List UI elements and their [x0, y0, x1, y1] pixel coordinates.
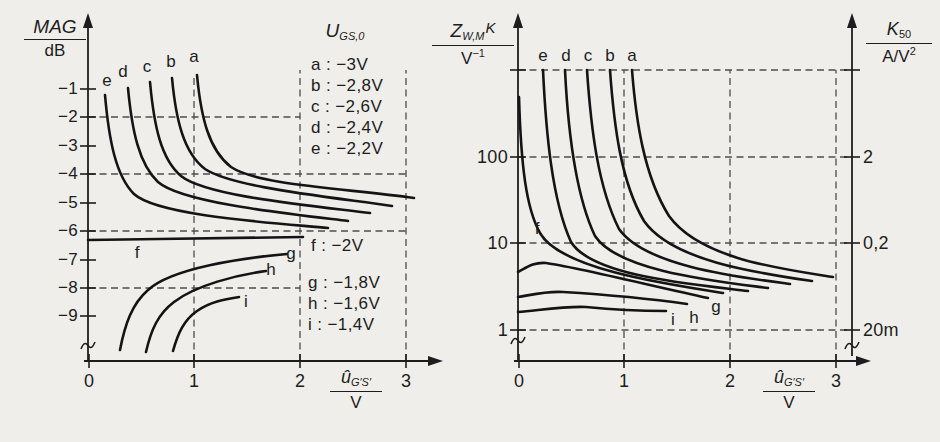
zk-label-numerator: ZW,MK: [432, 20, 514, 46]
left-x-tick-1: 1: [179, 371, 209, 392]
legend-header-subscript: GS,0: [339, 30, 364, 42]
legend-item-e: e : −2,2V: [311, 139, 383, 159]
curve-i-right: [518, 307, 666, 312]
k50-label-numerator: K50: [866, 20, 932, 44]
right-left-y-arrow: [513, 13, 523, 28]
legend-item-g: g : −1,8V: [308, 273, 380, 293]
left-y-tick-5: −5: [28, 193, 78, 213]
right-right-y-axis-label: K50 A/V2: [866, 20, 932, 65]
scanned-figure: MAG dB −1 −2 −3 −4 −5 −6 −7 −8 −9 0 1 2 …: [0, 0, 940, 442]
curve-label-i-left: i: [244, 292, 248, 312]
legend-item-b: b : −2,8V: [311, 76, 383, 96]
left-plot-arrows: [83, 13, 443, 366]
right-x-tick-1: 1: [609, 371, 639, 392]
curve-f-left: [88, 237, 303, 240]
curve-label-b-left: b: [166, 52, 175, 72]
curve-label-h-right: h: [689, 308, 698, 328]
right-y-tick-100: 100: [456, 147, 508, 168]
curve-label-g-left: g: [286, 244, 295, 264]
curve-g-left: [120, 254, 287, 350]
left-y-label-denominator: dB: [24, 40, 86, 60]
right-y2-tick-20m: 20m: [863, 320, 933, 341]
curve-label-c-right: c: [584, 46, 593, 66]
curve-h-left: [146, 271, 266, 352]
right-x-axis-label: ûG′S′ V: [763, 368, 815, 411]
legend-header: UGS,0: [314, 20, 376, 42]
left-y-tick-7: −7: [28, 250, 78, 270]
zk-label-denominator: V−1: [432, 46, 514, 68]
right-x-tick-3: 3: [821, 371, 851, 392]
left-x-arrow: [428, 356, 443, 366]
k50-label-denominator: A/V2: [866, 44, 932, 66]
curve-a-right: [632, 70, 833, 277]
right-plot-axes: [510, 26, 860, 368]
curve-label-e-right: e: [538, 46, 547, 66]
left-y-tick-9: −9: [28, 306, 78, 326]
right-y-tick-10: 10: [456, 233, 508, 254]
curve-label-e-left: e: [102, 71, 111, 91]
left-y-tick-1: −1: [28, 79, 78, 99]
legend-item-h: h : −1,6V: [308, 294, 380, 314]
curve-label-i-right: i: [671, 310, 675, 330]
curve-i-left: [173, 297, 239, 351]
curve-label-a-left: a: [189, 47, 198, 67]
left-y-tick-4: −4: [28, 164, 78, 184]
curve-label-d-right: d: [561, 46, 570, 66]
curve-label-f-left: f: [135, 243, 140, 263]
right-x-label-numerator: ûG′S′: [763, 368, 815, 392]
left-y-tick-2: −2: [28, 107, 78, 127]
curve-label-g-right: g: [711, 297, 720, 317]
left-y-label-numerator: MAG: [24, 17, 86, 40]
right-left-y-axis-label: ZW,MK V−1: [432, 20, 514, 67]
left-x-axis-label: ûG′S′ V: [330, 368, 382, 411]
left-x-tick-2: 2: [285, 371, 315, 392]
right-x-tick-2: 2: [715, 371, 745, 392]
curve-label-a-right: a: [627, 46, 636, 66]
curve-label-d-left: d: [118, 62, 127, 82]
right-x-arrow: [856, 356, 871, 366]
right-plot-curves: [518, 70, 833, 312]
legend-item-f: f : −2V: [311, 236, 363, 256]
curve-label-c-left: c: [143, 57, 152, 77]
legend-header-symbol: U: [326, 20, 340, 41]
curve-e-left: [105, 95, 328, 228]
left-y-tick-8: −8: [28, 278, 78, 298]
left-x-label-denominator: V: [330, 392, 382, 412]
curve-label-h-left: h: [266, 260, 275, 280]
curve-h-right: [518, 292, 687, 304]
right-x-tick-0: 0: [504, 371, 534, 392]
curve-d-right: [565, 70, 768, 288]
legend-item-d: d : −2,4V: [311, 118, 383, 138]
legend-item-i: i : −1,4V: [308, 315, 374, 335]
left-x-tick-3: 3: [391, 371, 421, 392]
curve-b-right: [610, 70, 812, 281]
left-y-tick-6: −6: [28, 221, 78, 241]
right-y2-tick-2: 2: [863, 147, 933, 168]
left-x-tick-0: 0: [74, 371, 104, 392]
right-y2-tick-02: 0,2: [863, 233, 933, 254]
curve-label-f-right: f: [535, 219, 540, 239]
right-x-label-denominator: V: [763, 392, 815, 412]
curve-label-b-right: b: [605, 46, 614, 66]
left-y-tick-3: −3: [28, 136, 78, 156]
right-y-tick-1: 1: [456, 320, 508, 341]
left-y-axis-label: MAG dB: [24, 17, 86, 60]
left-x-label-numerator: ûG′S′: [330, 368, 382, 392]
right-right-y-arrow: [847, 13, 857, 28]
legend-item-c: c : −2,6V: [311, 97, 382, 117]
legend-item-a: a : −3V: [311, 55, 368, 75]
